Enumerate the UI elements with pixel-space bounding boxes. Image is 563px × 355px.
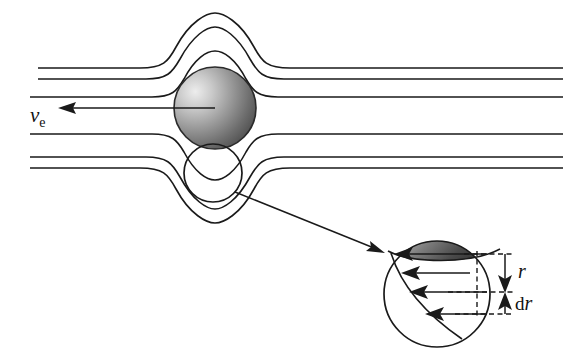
velocity-subscript: e	[39, 115, 45, 130]
differential-symbol: r	[525, 292, 533, 314]
flow-past-sphere-diagram: ve	[0, 0, 563, 355]
figure-root: ve	[0, 0, 563, 355]
differential-prefix: d	[515, 293, 525, 314]
differential-label: dr	[515, 292, 533, 314]
radius-label: r	[518, 260, 526, 282]
canvas-background	[0, 0, 563, 355]
